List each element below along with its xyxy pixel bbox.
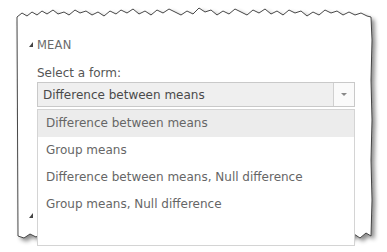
- collapse-triangle-icon: [29, 42, 33, 47]
- chevron-down-icon: [341, 93, 347, 96]
- dropdown-list: Difference between means Group means Dif…: [37, 109, 355, 246]
- dropdown-option[interactable]: Difference between means, Null differenc…: [38, 164, 354, 191]
- form-select-value: Difference between means: [43, 88, 205, 102]
- dropdown-option[interactable]: Difference between means: [38, 110, 354, 137]
- select-form-label: Select a form:: [37, 66, 121, 80]
- form-select[interactable]: Difference between means: [37, 82, 355, 107]
- section-header-mean[interactable]: MEAN: [29, 38, 71, 52]
- dropdown-option[interactable]: Group means, Null difference: [38, 191, 354, 218]
- dropdown-toggle-button[interactable]: [333, 83, 354, 106]
- section-title: MEAN: [37, 38, 71, 52]
- dropdown-option[interactable]: Group means: [38, 137, 354, 164]
- collapse-triangle-icon[interactable]: [29, 213, 33, 218]
